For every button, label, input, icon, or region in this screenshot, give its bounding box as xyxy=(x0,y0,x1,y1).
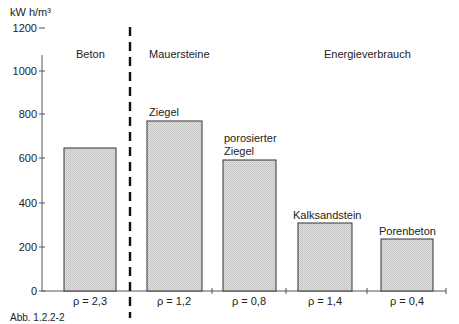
density-ziegel: ρ = 1,2 xyxy=(157,295,191,307)
density-labels: ρ = 2,3 ρ = 1,2 ρ = 0,8 ρ = 1,4 ρ = 0,4 xyxy=(73,295,424,307)
density-porosierter-ziegel: ρ = 0,8 xyxy=(232,295,266,307)
bar-kalksandstein xyxy=(298,223,352,291)
bar-porosierter-ziegel xyxy=(223,160,276,291)
y-tick-labels: 0 200 400 600 800 1000 1200 xyxy=(13,22,37,297)
y-tick-400: 400 xyxy=(19,197,37,209)
y-tick-200: 200 xyxy=(19,241,37,253)
bar-ziegel xyxy=(147,121,202,291)
y-tick-1000: 1000 xyxy=(13,65,37,77)
bar-beton xyxy=(64,148,116,291)
bar-label-porosierter-1: porosierter xyxy=(224,132,277,144)
bar-label-ziegel: Ziegel xyxy=(149,106,179,118)
y-tick-600: 600 xyxy=(19,152,37,164)
group-label-energieverbrauch: Energieverbrauch xyxy=(324,48,411,60)
bar-label-porenbeton: Porenbeton xyxy=(379,225,436,237)
y-tick-0: 0 xyxy=(31,285,37,297)
group-label-beton: Beton xyxy=(76,48,105,60)
density-kalksandstein: ρ = 1,4 xyxy=(308,295,342,307)
group-label-mauersteine: Mauersteine xyxy=(149,48,210,60)
bar-label-porosierter-2: Ziegel xyxy=(224,145,254,157)
figure-caption: Abb. 1.2.2-2 xyxy=(10,312,65,323)
density-beton: ρ = 2,3 xyxy=(73,295,107,307)
y-axis-label: kW h/m³ xyxy=(10,6,51,18)
bar-label-kalksandstein: Kalksandstein xyxy=(293,209,362,221)
density-porenbeton: ρ = 0,4 xyxy=(390,295,424,307)
y-tick-800: 800 xyxy=(19,108,37,120)
chart: kW h/m³ 0 200 400 600 800 1000 1200 Beto… xyxy=(0,0,459,324)
y-tick-1200: 1200 xyxy=(13,22,37,34)
bar-porenbeton xyxy=(381,239,433,291)
